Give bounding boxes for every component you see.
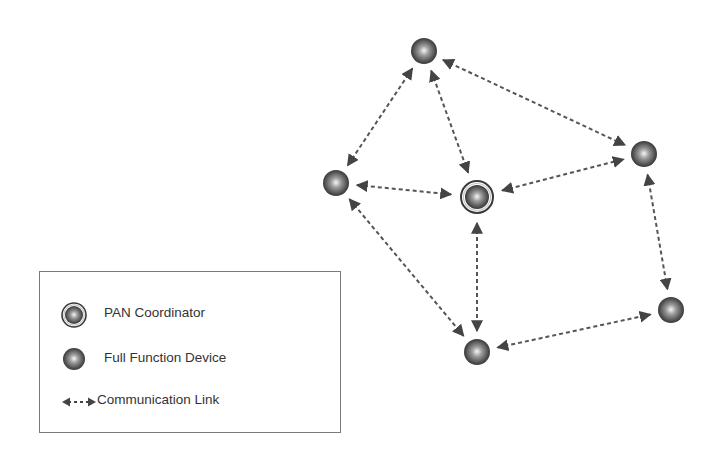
communication-link-icon [62,394,96,412]
full-function-device-icon [62,347,86,375]
full-function-device-node-top [411,38,437,64]
communication-link-bottom-far-right [498,314,651,347]
legend-label-pan-coordinator: PAN Coordinator [104,305,205,320]
full-function-device-node-right [631,141,657,167]
pan-coordinator-node-coordinator [461,181,493,213]
full-function-device-node-far-right [658,297,684,323]
communication-link-coordinator-right [502,159,623,190]
legend-label-full-function-device: Full Function Device [104,350,226,365]
nodes-layer [323,38,684,365]
communication-link-top-coordinator [431,71,468,173]
communication-link-top-right [443,60,625,145]
full-function-device-node-left [323,170,349,196]
communication-link-left-bottom [349,199,463,336]
full-function-device-node-bottom [464,339,490,365]
communication-link-left-coordinator [357,185,451,194]
communication-link-right-far-right [648,175,668,290]
communication-link-top-left [348,68,413,165]
legend-box: PAN Coordinator Full Function Device Com… [39,271,341,433]
legend-label-communication-link: Communication Link [97,392,219,407]
pan-coordinator-icon [61,302,87,332]
links-layer [348,60,668,348]
